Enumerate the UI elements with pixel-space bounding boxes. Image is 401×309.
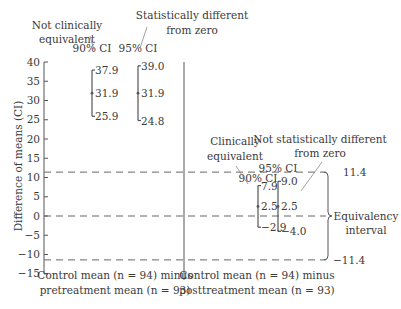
equivalence-ci-chart: Difference of means (CI) 403530252015105… <box>0 0 401 309</box>
upper-bound-label: 11.4 <box>343 166 367 178</box>
y-tick-label: 0 <box>33 210 40 222</box>
y-tick-label: 5 <box>33 190 40 202</box>
group-2-label-line2: posttreatment mean (n = 93) <box>179 284 334 296</box>
equivalency-label-line1: Equivalency <box>334 210 399 222</box>
ci-interval: 37.931.925.990% CI <box>73 42 119 122</box>
y-tick-label: −10 <box>18 248 40 260</box>
ci-mean-label: 31.9 <box>141 87 164 99</box>
y-axis-title: Difference of means (CI) <box>12 101 24 232</box>
reference-lines: 11.4−11.4 <box>44 166 367 266</box>
annotation-line1: Not clinically <box>32 19 103 31</box>
annotation-line2: equivalent <box>207 150 264 162</box>
group-2-label-line1: Control mean (n = 94) minus <box>179 269 334 281</box>
y-tick-label: 20 <box>27 133 40 145</box>
ci-lower-label: 24.8 <box>141 115 164 127</box>
annotations: Not clinicallyequivalentStatistically di… <box>32 9 388 191</box>
equivalency-label-line2: interval <box>345 224 387 236</box>
y-tick-label: −5 <box>25 229 40 241</box>
annotation-leader <box>301 162 322 191</box>
ci-mean-point <box>91 92 94 95</box>
annotation-line2: from zero <box>294 147 346 159</box>
ci-name-label: 95% CI <box>119 42 158 54</box>
ci-interval: 39.031.924.895% CI <box>119 42 165 127</box>
ci-mean-point <box>257 205 260 208</box>
ci-lower-label: 25.9 <box>95 110 118 122</box>
y-tick-label: 10 <box>27 171 40 183</box>
y-tick-label: 15 <box>27 152 40 164</box>
ci-upper-label: 39.0 <box>141 60 164 72</box>
ci-mean-label: 31.9 <box>95 87 118 99</box>
group-1-label-line1: Control mean (n = 94) minus <box>37 269 192 281</box>
ci-mean-label: 2.5 <box>261 200 278 212</box>
ci-mean-point <box>277 205 280 208</box>
annotation-line2: equivalent <box>39 33 96 45</box>
ci-lower-label: −4.0 <box>281 225 307 237</box>
ci-upper-label: 37.9 <box>95 64 118 76</box>
annotation-line2: from zero <box>166 24 218 36</box>
y-tick-label: 35 <box>27 75 40 87</box>
ci-upper-label: 9.0 <box>281 175 298 187</box>
y-tick-label: 30 <box>27 94 40 106</box>
ci-name-label: 95% CI <box>259 162 298 174</box>
ci-mean-label: 2.5 <box>281 200 298 212</box>
annotation-line1: Not statistically different <box>253 133 387 145</box>
lower-bound-label: −11.4 <box>333 254 365 266</box>
y-tick-label: 25 <box>27 113 40 125</box>
group-1-label-line2: pretreatment mean (n = 93) <box>40 284 191 296</box>
ci-mean-point <box>137 92 140 95</box>
annotation-line1: Statistically different <box>136 9 249 21</box>
y-tick-label: 40 <box>27 56 40 68</box>
